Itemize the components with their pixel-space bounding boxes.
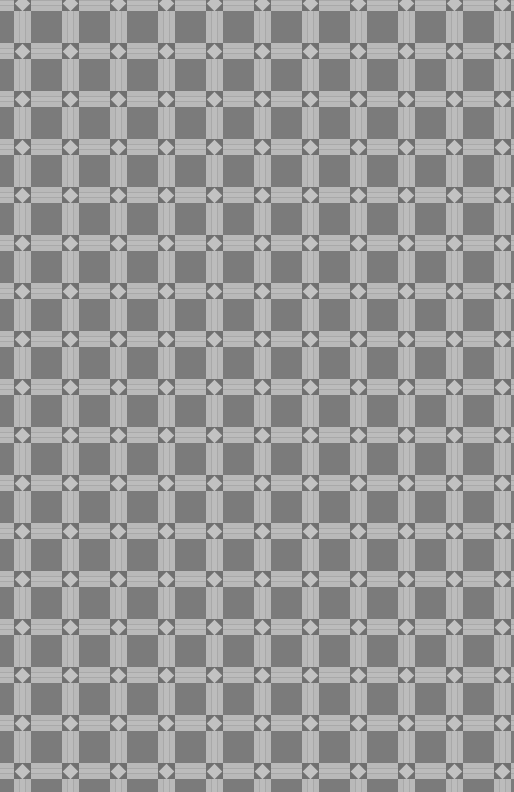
diamond-node xyxy=(14,427,31,443)
diamond-node xyxy=(14,475,31,491)
diamond-node xyxy=(302,187,319,203)
diamond-node xyxy=(350,571,367,587)
diamond-node xyxy=(398,475,415,491)
diamond-node xyxy=(494,667,511,683)
diamond-node xyxy=(110,187,127,203)
diamond-node xyxy=(110,523,127,539)
diamond-node xyxy=(158,475,175,491)
diamond-node xyxy=(398,523,415,539)
diamond-node xyxy=(398,571,415,587)
diamond-node xyxy=(302,91,319,107)
diamond-node xyxy=(62,619,79,635)
diamond-node xyxy=(350,43,367,59)
diamond-node xyxy=(14,43,31,59)
diamond-node xyxy=(62,139,79,155)
diamond-node xyxy=(158,427,175,443)
diamond-node xyxy=(302,667,319,683)
diamond-node xyxy=(446,235,463,251)
diamond-node xyxy=(206,235,223,251)
diamond-node xyxy=(206,187,223,203)
diamond-node xyxy=(110,427,127,443)
diamond-node xyxy=(302,235,319,251)
diamond-node xyxy=(62,427,79,443)
diamond-node xyxy=(494,523,511,539)
diamond-node xyxy=(110,91,127,107)
diamond-node xyxy=(350,0,367,11)
diamond-node xyxy=(494,139,511,155)
diamond-node xyxy=(158,523,175,539)
diamond-node xyxy=(398,715,415,731)
diamond-node xyxy=(62,763,79,779)
diamond-node xyxy=(302,139,319,155)
diamond-node xyxy=(398,0,415,11)
diamond-node xyxy=(62,187,79,203)
diamond-node xyxy=(206,331,223,347)
diamond-node xyxy=(254,187,271,203)
diamond-node xyxy=(398,331,415,347)
diamond-node xyxy=(350,619,367,635)
diamond-node xyxy=(254,91,271,107)
diamond-node xyxy=(254,667,271,683)
diamond-node xyxy=(302,475,319,491)
diamond-node xyxy=(446,715,463,731)
diamond-node xyxy=(206,523,223,539)
diamond-node xyxy=(494,571,511,587)
diamond-node xyxy=(254,331,271,347)
diamond-node xyxy=(398,619,415,635)
diamond-node xyxy=(302,571,319,587)
diamond-node xyxy=(206,283,223,299)
diamond-node xyxy=(158,763,175,779)
diamond-node xyxy=(446,523,463,539)
diamond-node xyxy=(110,619,127,635)
diamond-node xyxy=(62,379,79,395)
diamond-node xyxy=(350,91,367,107)
diamond-node xyxy=(110,331,127,347)
diamond-node xyxy=(302,523,319,539)
diamond-node xyxy=(350,523,367,539)
diamond-node xyxy=(14,187,31,203)
diamond-node xyxy=(14,379,31,395)
diamond-node xyxy=(398,139,415,155)
diamond-node xyxy=(110,715,127,731)
diamond-node xyxy=(206,427,223,443)
diamond-node xyxy=(206,0,223,11)
diamond-node xyxy=(206,667,223,683)
diamond-node xyxy=(446,571,463,587)
diamond-node xyxy=(446,43,463,59)
diamond-node xyxy=(110,379,127,395)
diamond-node xyxy=(446,379,463,395)
diamond-node xyxy=(254,283,271,299)
diamond-node xyxy=(494,331,511,347)
diamond-node xyxy=(494,379,511,395)
diamond-node xyxy=(206,715,223,731)
diamond-node xyxy=(62,571,79,587)
diamond-node xyxy=(14,715,31,731)
diamond-node xyxy=(446,427,463,443)
lattice-pattern xyxy=(0,0,514,792)
diamond-node xyxy=(398,283,415,299)
diamond-node xyxy=(398,379,415,395)
diamond-node xyxy=(158,715,175,731)
diamond-node xyxy=(350,187,367,203)
diamond-node xyxy=(14,235,31,251)
diamond-node xyxy=(14,0,31,11)
diamond-node xyxy=(206,619,223,635)
diamond-node xyxy=(350,427,367,443)
diamond-node xyxy=(302,0,319,11)
diamond-node xyxy=(494,475,511,491)
diamond-node xyxy=(158,235,175,251)
diamond-node xyxy=(62,715,79,731)
diamond-node xyxy=(110,235,127,251)
diamond-node xyxy=(254,763,271,779)
diamond-node xyxy=(62,0,79,11)
diamond-node xyxy=(302,43,319,59)
diamond-node xyxy=(158,0,175,11)
diamond-node xyxy=(446,139,463,155)
diamond-node xyxy=(446,763,463,779)
diamond-node xyxy=(14,523,31,539)
diamond-node xyxy=(494,43,511,59)
diamond-node xyxy=(110,43,127,59)
diamond-node xyxy=(110,571,127,587)
diamond-node xyxy=(398,763,415,779)
diamond-node xyxy=(350,763,367,779)
